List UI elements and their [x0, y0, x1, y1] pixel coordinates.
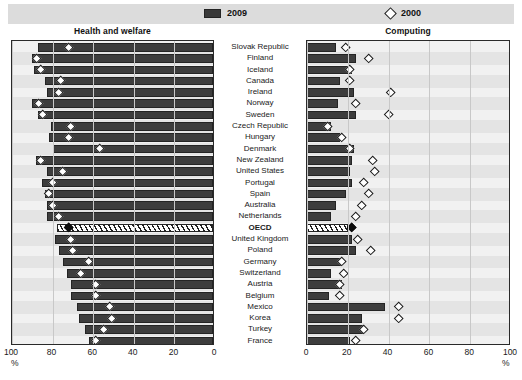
marker-2000 — [351, 212, 361, 222]
marker-2000 — [385, 87, 395, 97]
legend-label-2000: 2000 — [401, 7, 421, 20]
chart-row — [12, 335, 213, 345]
axis-tick-20: 20 — [169, 347, 178, 357]
axis-unit-left: % — [11, 358, 19, 368]
marker-2000 — [394, 313, 404, 323]
x-axis-computing: 020406080100 — [306, 347, 510, 359]
bar-2009 — [47, 201, 213, 210]
gridline — [12, 41, 13, 344]
gridline — [307, 41, 308, 344]
bar-2009 — [307, 77, 340, 86]
axis-tick-80: 80 — [464, 347, 473, 357]
marker-2000 — [351, 99, 361, 109]
axis-tick-100: 100 — [503, 347, 517, 357]
bar-2009 — [42, 179, 213, 188]
bar-2009 — [307, 314, 362, 323]
bar-2009 — [307, 325, 364, 334]
legend-label-2009: 2009 — [227, 7, 247, 20]
bar-2009 — [47, 212, 213, 221]
bar-2009 — [307, 190, 346, 199]
plot-area-health-and-welfare — [11, 40, 214, 345]
bar-2009 — [32, 99, 213, 108]
marker-2000 — [353, 234, 363, 244]
bar-2009 — [307, 133, 340, 142]
axis-tick-60: 60 — [424, 347, 433, 357]
bar-2009 — [307, 179, 352, 188]
marker-2000 — [394, 302, 404, 312]
bar-2009 — [307, 43, 336, 52]
bar-2009 — [307, 99, 338, 108]
marker-2000 — [357, 200, 367, 210]
legend-item-2009: 2009 — [204, 7, 247, 20]
bar-2009 — [36, 156, 213, 165]
bar-2009 — [307, 269, 331, 278]
bar-2009 — [32, 54, 213, 63]
marker-2000 — [363, 189, 373, 199]
axis-tick-100: 100 — [4, 347, 18, 357]
gridline — [134, 41, 135, 344]
bar-2009 — [307, 292, 329, 301]
gridline — [470, 41, 471, 344]
bar-2009 — [45, 77, 213, 86]
x-axis-health-and-welfare: 100806040200 — [11, 347, 214, 359]
bar-2009 — [47, 88, 213, 97]
marker-2000 — [359, 178, 369, 188]
marker-2000 — [369, 166, 379, 176]
marker-2000 — [363, 53, 373, 63]
bar-2009 — [59, 246, 213, 255]
bar-2009 — [307, 212, 331, 221]
gridline — [429, 41, 430, 344]
marker-2000 — [334, 291, 344, 301]
bar-2009 — [45, 190, 213, 199]
axis-tick-0: 0 — [304, 347, 309, 357]
legend-item-2000: 2000 — [386, 7, 421, 20]
marker-2000 — [351, 336, 361, 345]
axis-tick-0: 0 — [212, 347, 217, 357]
bar-2009 — [307, 156, 352, 165]
axis-tick-60: 60 — [87, 347, 96, 357]
bar-rows-health-and-welfare — [12, 41, 213, 344]
bar-2009 — [38, 111, 213, 120]
axis-tick-80: 80 — [47, 347, 56, 357]
gridline — [348, 41, 349, 344]
chart-row — [307, 335, 509, 345]
country-label-france: France — [216, 335, 304, 348]
bar-rows-computing — [307, 41, 509, 344]
bar-2009 — [47, 167, 213, 176]
bar-2009 — [307, 167, 350, 176]
gridline — [93, 41, 94, 344]
gridline — [174, 41, 175, 344]
gridline — [389, 41, 390, 344]
bar-2009 — [307, 235, 352, 244]
panel-title-health-and-welfare: Health and welfare — [11, 26, 214, 36]
bar-oecd — [57, 224, 213, 233]
plot-area-computing — [306, 40, 510, 345]
marker-2000 — [367, 155, 377, 165]
bar-2009 — [77, 303, 213, 312]
gridline — [53, 41, 54, 344]
bar-swatch-icon — [204, 9, 221, 18]
bar-2009 — [307, 303, 385, 312]
bar-2009 — [307, 201, 336, 210]
bar-2009 — [34, 66, 213, 75]
bar-2009 — [79, 314, 213, 323]
panel-title-computing: Computing — [306, 26, 510, 36]
bar-oecd — [307, 224, 348, 233]
diamond-swatch-icon — [384, 7, 397, 20]
bar-2009 — [307, 337, 350, 345]
bar-2009 — [89, 337, 213, 345]
marker-2000 — [365, 245, 375, 255]
country-label-column: Slovak RepublicFinlandIcelandCanadaIrela… — [216, 41, 304, 346]
bar-2009 — [67, 269, 213, 278]
axis-unit-right: % — [502, 358, 510, 368]
axis-tick-20: 20 — [342, 347, 351, 357]
axis-tick-40: 40 — [128, 347, 137, 357]
marker-2000 — [345, 76, 355, 86]
marker-2000 — [341, 42, 351, 52]
chart-legend: 2009 2000 — [8, 4, 514, 24]
axis-tick-40: 40 — [383, 347, 392, 357]
